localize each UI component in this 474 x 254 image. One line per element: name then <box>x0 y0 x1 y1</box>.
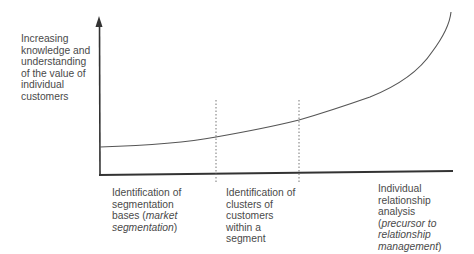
stage-label-line: within a <box>226 222 295 234</box>
y-axis <box>100 22 101 175</box>
stage-label-line: segmentation) <box>112 222 181 234</box>
x-axis <box>99 171 453 175</box>
text-span: ) <box>438 241 441 252</box>
stage-label-customer-clusters: Identification of clusters of customers … <box>226 187 295 245</box>
italic-span: management <box>378 241 438 252</box>
italic-span: segmentation <box>112 222 174 233</box>
stage-label-line: relationship <box>378 195 442 207</box>
y-label-line: customers <box>21 91 90 103</box>
y-label-line: knowledge and <box>21 45 90 57</box>
stage-label-line: customers <box>226 210 295 222</box>
italic-span: relationship <box>378 229 431 240</box>
y-label-line: individual <box>21 79 90 91</box>
y-label-line: of the value of <box>21 68 90 80</box>
stage-label-line: segment <box>226 233 295 245</box>
knowledge-curve <box>100 12 451 147</box>
stage-label-line: (precursor to <box>378 218 442 230</box>
stage-label-individual-relationship: Individual relationship analysis (precur… <box>378 183 442 253</box>
y-axis-arrow-icon <box>96 16 103 27</box>
stage-label-line: bases (market <box>112 210 181 222</box>
stage-label-line: relationship <box>378 229 442 241</box>
stage-label-line: Individual <box>378 183 442 195</box>
y-label-line: Increasing <box>21 33 90 45</box>
stage-label-segmentation-bases: Identification of segmentation bases (ma… <box>112 187 181 233</box>
text-span: bases ( <box>112 210 146 221</box>
stage-label-line: segmentation <box>112 199 181 211</box>
italic-span: precursor to <box>381 218 436 229</box>
stage-label-line: clusters of <box>226 199 295 211</box>
y-axis-label: Increasing knowledge and understanding o… <box>21 33 90 103</box>
stage-label-line: Identification of <box>226 187 295 199</box>
stage-label-line: management) <box>378 241 442 253</box>
italic-span: market <box>146 210 177 221</box>
stage-label-line: Identification of <box>112 187 181 199</box>
y-label-line: understanding <box>21 56 90 68</box>
stage-label-line: analysis <box>378 206 442 218</box>
text-span: ) <box>174 222 177 233</box>
